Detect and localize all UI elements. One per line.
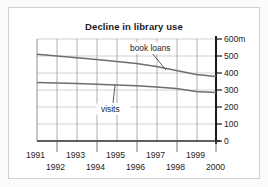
series-line-visits: [37, 82, 216, 92]
xtick-label-1999: 1999: [186, 150, 205, 160]
xtick-label-1998: 1998: [166, 162, 185, 172]
line-chart: 600m 500 400 300 200 100 0 1991 1993 199…: [0, 0, 268, 187]
x-axis-tick-labels-upper: 1991 1993 1995 1997 1999: [26, 150, 205, 160]
xtick-label-1996: 1996: [126, 162, 145, 172]
ytick-label-200: 200: [224, 102, 239, 112]
xtick-label-1992: 1992: [46, 162, 65, 172]
xtick-label-1994: 1994: [86, 162, 105, 172]
ytick-label-0: 0: [224, 136, 229, 146]
figure-background: Decline in library use: [0, 0, 268, 187]
xtick-label-1991: 1991: [26, 150, 45, 160]
xtick-label-1997: 1997: [146, 150, 165, 160]
ytick-label-600: 600m: [224, 34, 246, 44]
ytick-label-500: 500: [224, 51, 239, 61]
xtick-label-1995: 1995: [106, 150, 125, 160]
ytick-label-400: 400: [224, 68, 239, 78]
visits-leader-line: [113, 85, 115, 103]
xtick-label-1993: 1993: [66, 150, 85, 160]
book-loans-label: book loans: [130, 43, 171, 53]
visits-label: visits: [101, 104, 120, 114]
ytick-label-100: 100: [224, 119, 239, 129]
y-axis-tick-labels: 600m 500 400 300 200 100 0: [224, 34, 246, 146]
ytick-label-300: 300: [224, 85, 239, 95]
x-axis-tick-labels-lower: 1992 1994 1996 1998 2000: [46, 162, 225, 172]
xtick-label-2000: 2000: [206, 162, 225, 172]
